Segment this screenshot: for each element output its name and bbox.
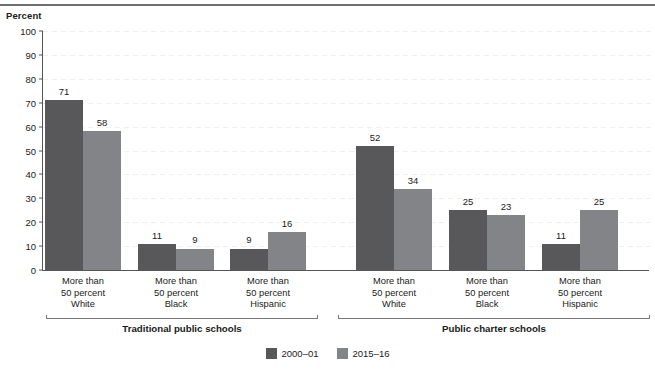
category-label-line: 50 percent [558, 288, 602, 300]
bar-value-label: 11 [556, 230, 566, 241]
chart-figure: Percent 01020304050607080901007111952251… [0, 0, 655, 370]
y-axis-tick-mark [39, 246, 43, 247]
bar [83, 131, 121, 270]
category-label-line: 50 percent [61, 288, 105, 300]
x-axis-baseline [43, 270, 649, 271]
bar [176, 249, 214, 271]
gridline [43, 151, 651, 152]
category-label: More than50 percentHispanic [246, 276, 290, 311]
category-label: More than50 percentBlack [465, 276, 509, 311]
category-label-line: More than [246, 276, 290, 288]
category-label-line: More than [558, 276, 602, 288]
gridline [43, 198, 651, 199]
y-axis-title: Percent [6, 10, 42, 21]
category-label-line: White [61, 299, 105, 311]
category-label-line: More than [61, 276, 105, 288]
group-bracket-line [46, 318, 318, 319]
bar-value-label: 16 [282, 218, 293, 229]
category-label: More than50 percentWhite [372, 276, 416, 311]
bar [449, 210, 487, 270]
gridline [43, 222, 651, 223]
bar-value-label: 71 [59, 86, 70, 97]
category-label: More than50 percentWhite [61, 276, 105, 311]
category-label-line: 50 percent [246, 288, 290, 300]
category-label-line: Black [465, 299, 509, 311]
bar-value-label: 9 [246, 234, 251, 245]
category-label-line: Black [154, 299, 198, 311]
bar [45, 100, 83, 270]
y-axis-tick-mark [39, 222, 43, 223]
group-bracket-tick [649, 315, 650, 319]
y-axis-tick-mark [39, 150, 43, 151]
bar [268, 232, 306, 270]
y-axis-tick-mark [39, 174, 43, 175]
gridline [43, 103, 651, 104]
top-divider-rule [0, 4, 655, 6]
y-axis-tick-mark [39, 54, 43, 55]
category-label: More than50 percentHispanic [558, 276, 602, 311]
gridline [43, 127, 651, 128]
bar-value-label: 9 [192, 234, 197, 245]
category-label-line: More than [154, 276, 198, 288]
bar [356, 146, 394, 270]
category-label-line: White [372, 299, 416, 311]
legend-item: 2015–16 [337, 348, 390, 359]
category-label-line: More than [465, 276, 509, 288]
category-label-line: 50 percent [465, 288, 509, 300]
legend-swatch-icon [337, 348, 348, 359]
bar-value-label: 52 [370, 132, 381, 143]
gridline [43, 55, 651, 56]
bar [230, 249, 268, 271]
chart-legend: 2000–012015–16 [0, 348, 655, 359]
y-axis-tick-mark [39, 31, 43, 32]
bar [138, 244, 176, 270]
category-label-line: Hispanic [246, 299, 290, 311]
legend-label: 2015–16 [353, 348, 390, 359]
y-axis-tick-mark [39, 78, 43, 79]
gridline [43, 31, 651, 32]
legend-label: 2000–01 [282, 348, 319, 359]
bar-value-label: 58 [97, 117, 108, 128]
y-axis-tick-mark [39, 102, 43, 103]
group-bracket-line [338, 318, 650, 319]
legend-item: 2000–01 [266, 348, 319, 359]
legend-swatch-icon [266, 348, 277, 359]
gridline [43, 79, 651, 80]
category-label-line: 50 percent [372, 288, 416, 300]
category-label-line: More than [372, 276, 416, 288]
bar [394, 189, 432, 270]
group-label: Public charter schools [442, 323, 546, 334]
group-bracket-tick [338, 315, 339, 319]
bar [542, 244, 580, 270]
bar-value-label: 23 [501, 201, 512, 212]
bar [487, 215, 525, 270]
bar-value-label: 34 [408, 175, 419, 186]
bar-value-label: 25 [463, 196, 474, 207]
bar-value-label: 11 [152, 230, 162, 241]
group-bracket-tick [317, 315, 318, 319]
category-label-line: Hispanic [558, 299, 602, 311]
plot-area: 0102030405060708090100711195225115891634… [43, 31, 651, 270]
y-axis-tick-mark [39, 198, 43, 199]
bar [580, 210, 618, 270]
category-label: More than50 percentBlack [154, 276, 198, 311]
y-axis-tick-mark [39, 126, 43, 127]
bar-value-label: 25 [594, 196, 605, 207]
group-bracket-tick [46, 315, 47, 319]
gridline [43, 174, 651, 175]
group-label: Traditional public schools [122, 323, 242, 334]
category-label-line: 50 percent [154, 288, 198, 300]
y-axis-tick-mark [39, 270, 43, 271]
